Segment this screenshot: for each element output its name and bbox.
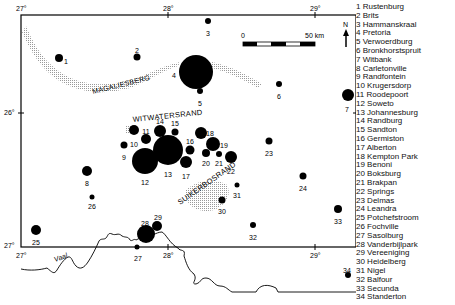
town-label-9: 9 bbox=[122, 154, 126, 161]
town-marker-4 bbox=[179, 55, 213, 89]
scale-end-label: 50 km bbox=[305, 32, 324, 39]
town-marker-22 bbox=[225, 151, 237, 163]
tick-label-bottom-29: 29° bbox=[310, 252, 321, 259]
town-marker-25 bbox=[31, 225, 41, 235]
town-label-21: 21 bbox=[215, 160, 223, 167]
map: 27° 28° 29° 26° 27° 27° 28° 29° 0 50 km … bbox=[0, 0, 356, 305]
town-marker-16 bbox=[186, 146, 195, 155]
town-label-24: 24 bbox=[299, 185, 307, 192]
witwatersrand-label: WITWATERSRAND bbox=[132, 108, 203, 124]
town-marker-15 bbox=[172, 129, 179, 136]
town-label-6: 6 bbox=[277, 93, 281, 100]
tick-label-bottom-27: 27° bbox=[16, 252, 27, 259]
town-marker-24 bbox=[300, 173, 307, 180]
town-marker-17 bbox=[180, 156, 192, 168]
town-label-12: 12 bbox=[141, 179, 149, 186]
town-label-1: 1 bbox=[64, 58, 68, 65]
town-marker-33 bbox=[334, 205, 342, 213]
towns-layer: 1234567891011121314151617181920212223242… bbox=[31, 18, 354, 278]
town-label-28: 28 bbox=[141, 220, 149, 227]
north-arrow-icon: N bbox=[343, 21, 349, 47]
town-marker-30 bbox=[219, 197, 226, 204]
legend: 1 Rustenburg2 Brits3 Hammanskraal4 Preto… bbox=[356, 3, 455, 302]
town-label-11: 11 bbox=[142, 128, 149, 135]
town-marker-26 bbox=[90, 195, 95, 200]
town-marker-2 bbox=[134, 54, 141, 61]
map-frame bbox=[21, 15, 356, 247]
town-label-10: 10 bbox=[130, 141, 138, 148]
town-marker-6 bbox=[276, 81, 282, 87]
tick-label-left-26: 26° bbox=[4, 109, 15, 116]
town-marker-27 bbox=[135, 245, 140, 250]
tick-label-top-27: 27° bbox=[16, 5, 27, 12]
town-label-19: 19 bbox=[220, 142, 228, 149]
legend-item: 34 Standerton bbox=[356, 293, 455, 302]
town-marker-21 bbox=[216, 151, 222, 157]
magaliesberg-ridge-east bbox=[212, 62, 262, 88]
town-label-34: 34 bbox=[343, 267, 351, 274]
vaal-label: Vaal bbox=[53, 252, 69, 263]
town-marker-14 bbox=[154, 125, 166, 137]
town-label-27: 27 bbox=[134, 255, 142, 262]
tick-label-top-29: 29° bbox=[310, 5, 321, 12]
town-marker-19 bbox=[206, 137, 220, 151]
town-marker-1 bbox=[55, 54, 63, 62]
town-label-4: 4 bbox=[172, 72, 176, 79]
town-label-17: 17 bbox=[182, 173, 190, 180]
town-marker-31 bbox=[235, 183, 240, 188]
town-label-33: 33 bbox=[334, 218, 342, 225]
town-marker-8 bbox=[82, 166, 92, 176]
tick-label-left-27: 27° bbox=[4, 242, 15, 249]
town-marker-13 bbox=[153, 135, 183, 165]
town-label-3: 3 bbox=[206, 30, 210, 37]
tick-label-bottom-28: 28° bbox=[163, 252, 174, 259]
town-label-5: 5 bbox=[198, 100, 202, 107]
town-marker-9 bbox=[121, 142, 128, 149]
town-marker-29 bbox=[152, 221, 162, 231]
town-label-13: 13 bbox=[164, 171, 172, 178]
town-label-26: 26 bbox=[88, 203, 96, 210]
town-label-14: 14 bbox=[156, 118, 164, 125]
town-marker-20 bbox=[202, 149, 210, 157]
town-label-31: 31 bbox=[233, 192, 241, 199]
scale-bar: 0 50 km bbox=[241, 32, 324, 46]
town-marker-10 bbox=[129, 125, 139, 135]
town-label-2: 2 bbox=[135, 47, 139, 54]
town-marker-5 bbox=[197, 88, 203, 94]
vaal-river bbox=[21, 232, 356, 292]
town-label-30: 30 bbox=[218, 208, 226, 215]
scale-start-label: 0 bbox=[241, 32, 245, 39]
axis-ticks bbox=[18, 12, 356, 250]
town-marker-7 bbox=[342, 89, 354, 101]
town-label-22: 22 bbox=[227, 168, 235, 175]
town-marker-3 bbox=[205, 18, 211, 24]
town-marker-23 bbox=[266, 138, 273, 145]
town-label-20: 20 bbox=[202, 160, 210, 167]
town-marker-11 bbox=[141, 134, 151, 144]
town-label-18: 18 bbox=[206, 130, 214, 137]
town-label-15: 15 bbox=[171, 120, 179, 127]
town-label-25: 25 bbox=[32, 239, 40, 246]
tick-label-top-28: 28° bbox=[163, 5, 174, 12]
town-label-16: 16 bbox=[186, 138, 194, 145]
town-label-8: 8 bbox=[85, 180, 89, 187]
town-label-7: 7 bbox=[345, 106, 349, 113]
town-label-32: 32 bbox=[249, 234, 257, 241]
town-label-29: 29 bbox=[154, 214, 162, 221]
town-label-23: 23 bbox=[265, 150, 273, 157]
north-label: N bbox=[343, 21, 348, 28]
town-marker-32 bbox=[250, 222, 256, 228]
magaliesberg-ridge bbox=[22, 26, 180, 92]
